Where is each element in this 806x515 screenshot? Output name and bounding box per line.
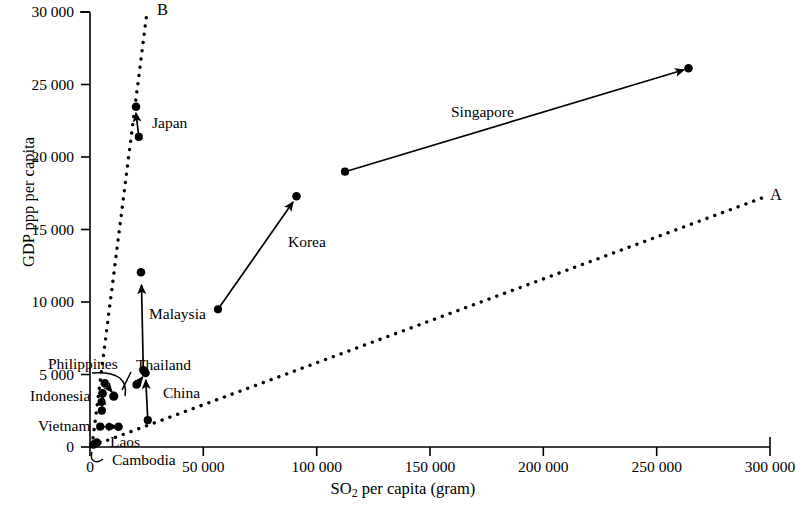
x-tick-label-300000: 300 000 bbox=[735, 459, 805, 475]
series-arrow-japan bbox=[132, 103, 143, 141]
series-label-laos: Laos bbox=[110, 434, 140, 450]
x-axis-title: SO2 per capita (gram) bbox=[0, 481, 806, 500]
x-tick-label-150000: 150 000 bbox=[395, 459, 465, 475]
series-arrow-indonesia bbox=[97, 389, 107, 415]
y-tick-label-30000: 30 000 bbox=[0, 4, 74, 20]
y-axis-title: GDP ppp per capita bbox=[19, 137, 38, 267]
series-label-china: China bbox=[163, 385, 200, 401]
series-label-vietnam: Vietnam bbox=[38, 418, 90, 434]
x-axis-title-pre: SO bbox=[331, 479, 352, 498]
x-tick-label-200000: 200 000 bbox=[508, 459, 578, 475]
series-arrow-singapore bbox=[341, 64, 693, 176]
series-label-singapore: Singapore bbox=[451, 104, 514, 120]
leader-line-philippines bbox=[92, 373, 126, 396]
x-tick-label-250000: 250 000 bbox=[622, 459, 692, 475]
series-label-korea: Korea bbox=[288, 234, 326, 250]
series-label-cambodia: Cambodia bbox=[112, 452, 176, 468]
series-label-japan: Japan bbox=[152, 115, 187, 131]
guide-label-a: A bbox=[770, 187, 782, 204]
series-label-philippines: Philippines bbox=[48, 356, 118, 372]
axis-lines bbox=[80, 12, 770, 447]
x-axis-title-post: per capita (gram) bbox=[358, 479, 476, 498]
series-label-indonesia: Indonesia bbox=[30, 388, 90, 404]
series-arrow-vietnam bbox=[96, 422, 123, 431]
guide-line-a bbox=[92, 198, 762, 446]
x-tick-label-50000: 50 000 bbox=[168, 459, 238, 475]
series-label-malaysia: Malaysia bbox=[149, 306, 206, 322]
y-tick-label-0: 0 bbox=[0, 439, 74, 455]
x-tick-label-100000: 100 000 bbox=[282, 459, 352, 475]
y-axis-ticks bbox=[81, 12, 90, 447]
y-axis-title-wrapper: GDP ppp per capita bbox=[19, 87, 39, 317]
series-arrow-thailand bbox=[132, 377, 142, 389]
series-label-thailand: Thailand bbox=[136, 357, 191, 373]
x-axis-ticks bbox=[90, 447, 770, 456]
guide-label-b: B bbox=[157, 2, 168, 19]
scatter-chart: 30 000 25 000 20 000 15 000 10 000 5 000… bbox=[0, 0, 806, 515]
series-arrow-cambodia bbox=[89, 441, 97, 449]
series-arrow-china bbox=[141, 369, 152, 425]
series-arrow-korea bbox=[214, 192, 301, 314]
